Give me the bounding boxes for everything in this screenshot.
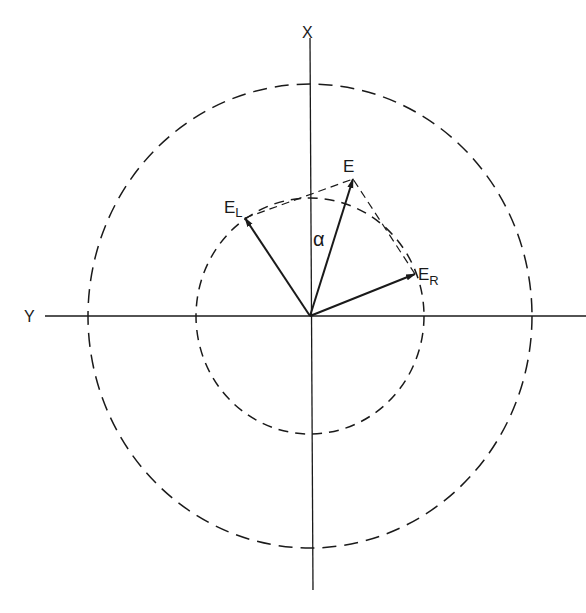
el-to-e-dashed-line <box>245 179 353 218</box>
x-axis-label: X <box>302 24 313 41</box>
label-e-left: EL <box>224 198 243 220</box>
angle-alpha-label: α <box>313 228 325 250</box>
label-e-right: ER <box>418 265 439 288</box>
vector-e-left <box>245 218 310 316</box>
er-to-e-dashed-line <box>353 179 415 274</box>
label-e: E <box>343 157 354 176</box>
y-axis-label: Y <box>24 308 35 325</box>
polarization-diagram: X Y E EL ER α <box>0 0 586 613</box>
vector-e-right <box>310 274 415 316</box>
